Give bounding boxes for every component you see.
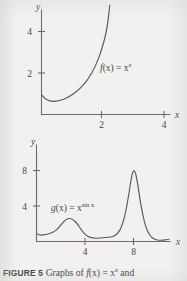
x-axis-label-bottom: x: [175, 237, 181, 247]
annotation-g-args: (x) = x: [56, 203, 82, 214]
y-axis-label-top: y: [35, 2, 41, 12]
figure-container: 4 2 2 4 y x f(x) = xx: [0, 0, 187, 281]
y-axis-label-bottom: y: [30, 137, 36, 147]
x-ticklabel-4-bottom: 4: [83, 247, 88, 257]
figure-caption: FIGURE 5 Graphs of f(x) = xx and: [3, 264, 187, 279]
chart-top-f-of-x: 4 2 2 4 y x f(x) = xx: [0, 0, 187, 135]
chart-bottom-g-of-x: 8 4 4 8 y x g(x) = xsin x: [0, 133, 187, 261]
y-ticklabel-8-bottom: 8: [22, 166, 27, 176]
y-ticklabel-2-top: 2: [27, 69, 32, 79]
annotation-f-args: (x) = x: [103, 63, 129, 74]
x-ticklabel-4-top: 4: [162, 120, 167, 130]
figure-caption-fn-args: (x) = x: [89, 267, 115, 278]
annotation-g-exponent: sin x: [82, 201, 95, 208]
chart-top-svg: 4 2 2 4 y x f(x) = xx: [0, 0, 187, 135]
x-ticklabel-2-top: 2: [99, 120, 104, 130]
x-ticklabel-8-bottom: 8: [131, 247, 136, 257]
figure-caption-text-2: and: [118, 267, 134, 278]
curve-f-of-x-path: [42, 5, 110, 101]
y-ticklabel-4-bottom: 4: [22, 202, 27, 212]
figure-caption-text-1: Graphs of: [43, 267, 86, 278]
annotation-f-exponent: x: [128, 61, 132, 68]
x-axis-label-top: x: [174, 110, 180, 120]
annotation-f-of-x: f(x) = xx: [100, 61, 132, 74]
y-ticklabel-4-top: 4: [27, 27, 32, 37]
annotation-g-of-x: g(x) = xsin x: [51, 201, 95, 214]
figure-caption-kicker: FIGURE 5: [3, 268, 43, 278]
chart-bottom-svg: 8 4 4 8 y x g(x) = xsin x: [0, 133, 187, 261]
